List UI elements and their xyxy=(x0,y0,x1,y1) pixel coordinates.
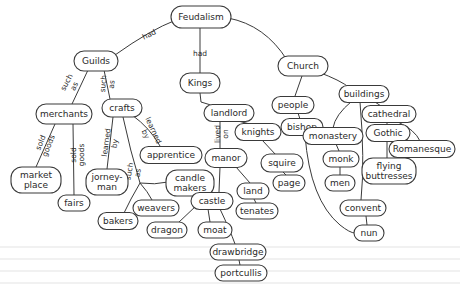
link-label: soldgoods xyxy=(32,130,57,158)
node-label: page xyxy=(278,178,301,188)
node-kings[interactable]: Kings xyxy=(180,73,220,93)
node-label: castle xyxy=(199,196,226,206)
link-label: suchas xyxy=(98,74,117,93)
node-castle[interactable]: castle xyxy=(191,193,233,210)
edge-manor-castle xyxy=(219,167,220,192)
node-portcullis[interactable]: portcullis xyxy=(215,265,267,281)
node-label: candlemakers xyxy=(173,173,206,193)
node-label: people xyxy=(278,100,309,110)
node-nun[interactable]: nun xyxy=(354,225,384,241)
node-label: apprentice xyxy=(147,150,196,160)
node-dragon[interactable]: dragon xyxy=(147,222,187,238)
node-label: cathedral xyxy=(368,109,411,119)
link-label: learnedby xyxy=(136,115,164,148)
node-label: Kings xyxy=(188,78,213,88)
node-fairs[interactable]: fairs xyxy=(58,195,90,211)
node-jorneyman[interactable]: jorney-man xyxy=(86,169,128,195)
node-label: dragon xyxy=(151,225,183,235)
link-label: learnedby xyxy=(99,127,120,158)
edge-convent-nun xyxy=(366,216,367,225)
edge-knights-squire xyxy=(262,140,276,155)
node-label: drawbridge xyxy=(212,247,264,257)
node-convent[interactable]: convent xyxy=(340,200,386,216)
node-label: monastery xyxy=(309,131,358,141)
node-label: knights xyxy=(241,127,274,137)
node-label: bakers xyxy=(103,216,133,226)
link-label: had xyxy=(193,49,207,58)
node-drawbridge[interactable]: drawbridge xyxy=(210,244,266,260)
node-market-place[interactable]: marketplace xyxy=(11,167,61,193)
node-label: tenates xyxy=(240,206,274,216)
edge-castle-moat xyxy=(208,209,210,222)
node-cathedral[interactable]: cathedral xyxy=(362,106,416,123)
edge-church-people xyxy=(295,76,302,96)
node-label: manor xyxy=(211,153,240,163)
node-romanesque[interactable]: Romanesque xyxy=(389,141,455,158)
node-label: men xyxy=(330,178,350,188)
node-label: convent xyxy=(345,203,382,213)
node-page[interactable]: page xyxy=(273,175,305,191)
edge-buildings-monastery xyxy=(333,101,352,128)
node-church[interactable]: Church xyxy=(278,56,328,76)
node-label: nun xyxy=(360,228,377,238)
edge-feudalism-church xyxy=(228,18,287,60)
node-flying-buttresses[interactable]: flyingbuttresses xyxy=(362,158,416,184)
node-label: weavers xyxy=(137,203,175,213)
node-label: moat xyxy=(203,225,227,235)
node-merchants[interactable]: merchants xyxy=(36,104,92,124)
node-label: Romanesque xyxy=(393,144,452,154)
node-land[interactable]: land xyxy=(237,183,269,199)
node-men[interactable]: men xyxy=(325,175,355,191)
node-gothic[interactable]: Gothic xyxy=(366,125,410,142)
node-tenates[interactable]: tenates xyxy=(236,203,278,219)
link-label: livedon xyxy=(212,125,230,143)
concept-map: hadhadsuchassuchassoldgoodssoldgoodslear… xyxy=(0,0,460,287)
node-label: land xyxy=(243,186,262,196)
edge-land-tenates xyxy=(254,199,256,203)
node-label: squire xyxy=(268,158,296,168)
node-label: Feudalism xyxy=(178,12,224,22)
node-monk[interactable]: monk xyxy=(323,151,359,167)
node-label: portcullis xyxy=(220,268,262,278)
node-label: Gothic xyxy=(373,128,402,138)
node-landlord[interactable]: landlord xyxy=(204,105,254,122)
node-squire[interactable]: squire xyxy=(261,154,303,172)
node-label: crafts xyxy=(109,103,135,113)
link-label: soldgoods xyxy=(68,144,86,167)
node-label: Guilds xyxy=(82,56,110,66)
edge-drawbridge-portcullis xyxy=(239,260,240,265)
node-guilds[interactable]: Guilds xyxy=(74,51,118,71)
node-manor[interactable]: manor xyxy=(205,149,247,168)
node-buildings[interactable]: buildings xyxy=(339,86,389,103)
link-label: had xyxy=(141,27,158,41)
node-feudalism[interactable]: Feudalism xyxy=(171,6,231,28)
node-label: Church xyxy=(287,61,319,71)
edge-crafts_split-candle_makers xyxy=(140,182,168,184)
node-moat[interactable]: moat xyxy=(198,222,232,238)
node-crafts[interactable]: crafts xyxy=(102,99,142,117)
node-monastery[interactable]: monastery xyxy=(303,128,363,145)
edge-crafts_split-weavers xyxy=(140,183,152,200)
node-bakers[interactable]: bakers xyxy=(98,213,138,230)
node-people[interactable]: people xyxy=(272,97,314,114)
node-label: merchants xyxy=(40,109,88,119)
node-label: buildings xyxy=(344,89,385,99)
node-label: monk xyxy=(328,154,354,164)
node-apprentice[interactable]: apprentice xyxy=(140,147,202,164)
node-knights[interactable]: knights xyxy=(235,124,281,141)
node-label: landlord xyxy=(211,108,248,118)
edge-manor-land xyxy=(236,167,250,183)
node-label: fairs xyxy=(64,198,84,208)
node-weavers[interactable]: weavers xyxy=(133,200,179,216)
node-label: marketplace xyxy=(20,170,52,190)
link-label: suchas xyxy=(58,72,82,96)
